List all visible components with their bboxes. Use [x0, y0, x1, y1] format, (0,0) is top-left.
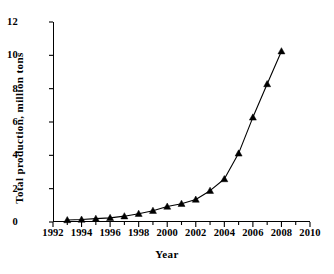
y-tick-label: 12 — [0, 17, 18, 27]
x-axis-minor-ticks — [67, 222, 295, 225]
plot-area — [53, 22, 310, 222]
chart-figure: 024681012 199219941996199820002002200420… — [0, 0, 334, 274]
y-axis-title: Total production, million tons — [13, 28, 25, 228]
x-axis-title: Year — [0, 248, 334, 260]
x-tick-label: 2010 — [290, 227, 330, 238]
